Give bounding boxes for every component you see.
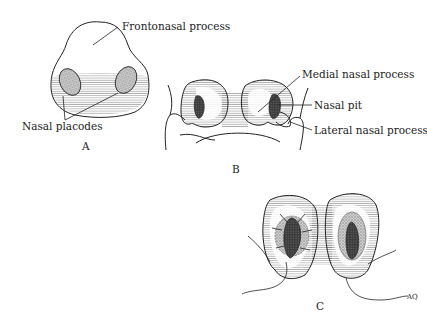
panel-label-b: B bbox=[232, 163, 240, 175]
panel-b-drawing bbox=[165, 76, 312, 150]
label-frontonasal-process: Frontonasal process bbox=[122, 20, 230, 32]
label-nasal-pit: Nasal pit bbox=[314, 99, 363, 111]
panel-label-a: A bbox=[81, 140, 90, 152]
label-lateral-nasal-process: Lateral nasal process bbox=[314, 124, 427, 136]
embryology-figure: Frontonasal process Nasal placodes A Med… bbox=[0, 0, 427, 325]
panel-label-c: C bbox=[316, 300, 324, 312]
panel-a-drawing bbox=[51, 22, 149, 120]
artist-signature: AQ bbox=[406, 293, 418, 301]
panel-c-drawing: AQ bbox=[242, 194, 418, 301]
label-medial-nasal-process: Medial nasal process bbox=[302, 68, 414, 80]
label-nasal-placodes: Nasal placodes bbox=[22, 120, 103, 132]
